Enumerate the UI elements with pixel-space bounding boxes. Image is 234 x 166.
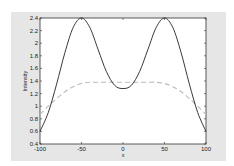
y-tick-label: 2 bbox=[35, 40, 39, 46]
y-tick-label: 0.8 bbox=[30, 116, 39, 122]
x-axis-label: x bbox=[122, 152, 125, 158]
x-tick-label: -50 bbox=[77, 146, 86, 152]
y-tick-label: 1.8 bbox=[30, 53, 39, 59]
y-tick-label: 1.4 bbox=[30, 78, 39, 84]
x-tick-label: -100 bbox=[34, 146, 47, 152]
x-tick-label: 50 bbox=[161, 146, 168, 152]
y-tick-label: 1.2 bbox=[30, 91, 39, 97]
line-chart: 0.40.60.811.21.41.61.822.22.4 -100-50050… bbox=[0, 0, 234, 166]
y-tick-label: 2.4 bbox=[30, 15, 39, 21]
y-axis-label: Intensity bbox=[22, 71, 28, 92]
y-tick-label: 0.6 bbox=[30, 128, 39, 134]
x-tick-label: 100 bbox=[201, 146, 212, 152]
y-tick-label: 2.2 bbox=[30, 28, 39, 34]
plot-area bbox=[40, 18, 206, 144]
y-tick-label: 1 bbox=[35, 103, 39, 109]
y-tick-label: 1.6 bbox=[30, 65, 39, 71]
